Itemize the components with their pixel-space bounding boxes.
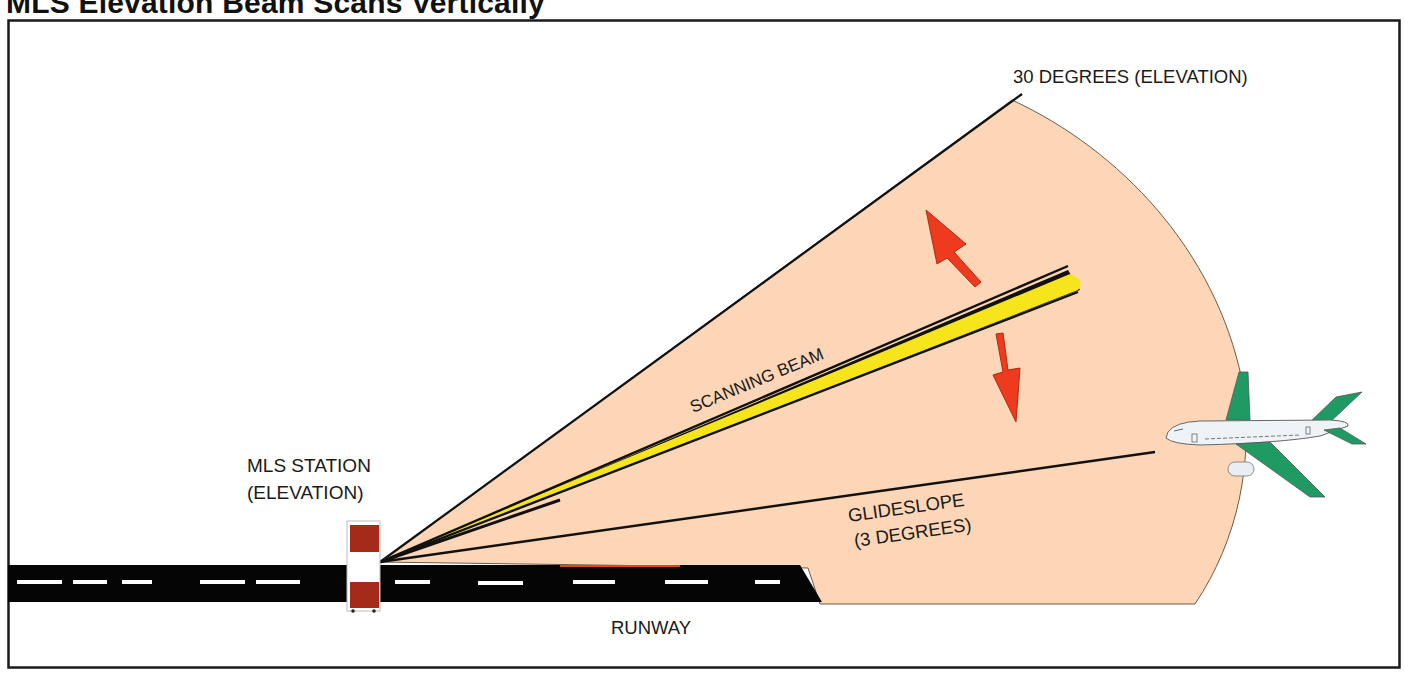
runway-centerline-markings bbox=[17, 582, 780, 583]
mls-station-icon bbox=[347, 521, 380, 613]
mls-elevation-diagram: 30 DEGREES (ELEVATION) MLS STATION (ELEV… bbox=[0, 0, 1405, 674]
station-label-line1: MLS STATION bbox=[247, 455, 371, 476]
station-label-line2: (ELEVATION) bbox=[247, 482, 363, 503]
runway-label: RUNWAY bbox=[611, 617, 691, 638]
upper-limit-label: 30 DEGREES (ELEVATION) bbox=[1013, 66, 1248, 87]
